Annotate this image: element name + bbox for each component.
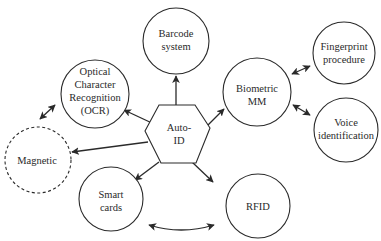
edge-biometric-fingerprint <box>292 66 310 74</box>
edge-ocr-magnetic <box>40 105 55 119</box>
node-ocr-label-1: Optical <box>80 66 111 77</box>
node-voice-label-1: Voice <box>334 117 358 128</box>
node-voice: Voice identification <box>314 98 378 162</box>
edge-autoid-smart-cards <box>135 162 159 180</box>
node-auto-id-label-1: Auto- <box>167 122 192 133</box>
node-barcode: Barcode system <box>143 8 209 74</box>
node-magnetic-label-1: Magnetic <box>17 155 57 166</box>
node-biometric-label-2: MM <box>248 96 267 107</box>
node-ocr: Optical Character Recognition (OCR) <box>61 60 129 128</box>
auto-id-diagram: Auto- ID Barcode system Optical Characte… <box>0 0 381 241</box>
node-fingerprint-label-2: procedure <box>323 54 365 65</box>
node-biometric-label-1: Biometric <box>236 83 278 94</box>
circle-shape <box>313 22 375 84</box>
node-smart-cards-label-1: Smart <box>98 189 123 200</box>
node-biometric: Biometric MM <box>223 58 291 126</box>
hexagon-shape <box>145 105 210 163</box>
node-magnetic: Magnetic <box>5 127 71 193</box>
node-ocr-label-3: Recognition <box>69 92 121 103</box>
node-fingerprint-label-1: Fingerprint <box>320 41 367 52</box>
node-auto-id: Auto- ID <box>145 105 210 163</box>
node-ocr-label-4: (OCR) <box>81 105 110 117</box>
node-ocr-label-2: Character <box>75 79 116 90</box>
node-smart-cards-label-2: cards <box>100 202 122 213</box>
edge-autoid-biometric <box>208 109 224 125</box>
node-rfid-label-1: RFID <box>246 201 270 212</box>
edge-autoid-rfid <box>192 162 213 182</box>
node-barcode-label-1: Barcode <box>159 28 194 39</box>
edge-autoid-magnetic <box>72 142 148 152</box>
node-auto-id-label-2: ID <box>173 135 184 146</box>
node-fingerprint: Fingerprint procedure <box>313 22 375 84</box>
edge-smart-cards-rfid <box>149 225 214 230</box>
edge-biometric-voice <box>293 105 310 115</box>
node-rfid: RFID <box>226 174 290 238</box>
node-barcode-label-2: system <box>161 41 190 52</box>
node-smart-cards: Smart cards <box>79 167 143 231</box>
node-voice-label-2: identification <box>318 130 375 141</box>
